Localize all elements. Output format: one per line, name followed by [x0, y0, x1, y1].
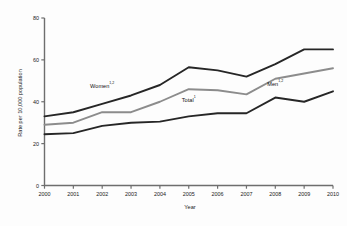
- y-tick-label: 0: [36, 183, 39, 189]
- x-tick-label: 2005: [183, 191, 195, 197]
- line-chart: 020406080 200020012002200320042005200620…: [0, 0, 347, 226]
- data-series-lines: [45, 49, 334, 134]
- x-tick-label: 2000: [39, 191, 51, 197]
- series-annotation-men: Men1,2: [267, 79, 283, 87]
- y-tick-label: 60: [33, 57, 39, 63]
- annotation-superscript: 1,2: [278, 79, 283, 83]
- x-tick-label: 2002: [96, 191, 108, 197]
- y-axis-tick-labels: 020406080: [33, 15, 39, 189]
- x-axis-tick-labels: 2000200120022003200420052006200720082009…: [39, 191, 340, 197]
- series-line-women: [45, 49, 334, 116]
- x-tick-label: 2001: [67, 191, 79, 197]
- x-tick-label: 2007: [240, 191, 252, 197]
- y-tick-label: 80: [33, 15, 39, 21]
- annotation-text: Total: [182, 97, 194, 103]
- x-tick-label: 2003: [125, 191, 137, 197]
- y-tick-label: 20: [33, 141, 39, 147]
- annotation-text: Men: [267, 81, 278, 87]
- y-axis-title: Rate per 10,000 population: [17, 69, 23, 137]
- x-tick-label: 2009: [298, 191, 310, 197]
- y-tick-label: 40: [33, 99, 39, 105]
- series-annotation-total: Total1: [182, 95, 196, 103]
- chart-figure: 020406080 200020012002200320042005200620…: [0, 0, 347, 226]
- x-axis-title: Year: [184, 204, 195, 210]
- x-tick-label: 2006: [212, 191, 224, 197]
- series-annotation-women: Women1,2: [90, 81, 114, 89]
- annotation-superscript: 1,2: [109, 81, 114, 85]
- annotation-superscript: 1: [194, 95, 196, 99]
- x-tick-label: 2010: [327, 191, 339, 197]
- x-tick-label: 2004: [154, 191, 166, 197]
- chart-axes: [41, 18, 333, 189]
- x-tick-label: 2008: [269, 191, 281, 197]
- annotation-text: Women: [90, 83, 109, 89]
